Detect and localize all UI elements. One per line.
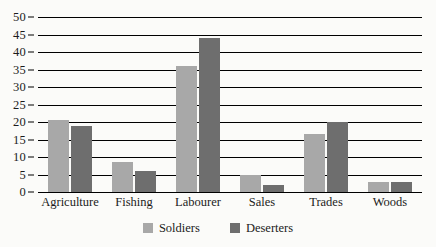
x-tick-label-trades: Trades — [309, 196, 343, 209]
y-tick-mark-40 — [28, 52, 34, 53]
legend-label-deserters: Deserters — [246, 222, 293, 235]
bars-layer — [38, 17, 422, 192]
gridline-0 — [38, 192, 422, 193]
bar-group — [38, 17, 102, 192]
bar-woods-deserters — [391, 182, 412, 193]
y-tick-label-20: 20 — [13, 116, 26, 129]
y-tick-label-0: 0 — [20, 186, 26, 199]
y-tick-mark-10 — [28, 157, 34, 158]
y-tick-mark-35 — [28, 69, 34, 70]
bar-group — [294, 17, 358, 192]
bar-trades-deserters — [327, 122, 348, 192]
x-tick-label-sales: Sales — [249, 196, 275, 209]
bar-group — [358, 17, 422, 192]
y-tick-mark-20 — [28, 122, 34, 123]
bar-chart: 05101520253035404550 AgricultureFishingL… — [0, 0, 436, 247]
legend-label-soldiers: Soldiers — [159, 222, 200, 235]
y-tick-label-40: 40 — [13, 46, 26, 59]
bar-labourer-deserters — [199, 38, 220, 192]
y-tick-label-30: 30 — [13, 81, 26, 94]
y-tick-mark-15 — [28, 139, 34, 140]
y-tick-label-25: 25 — [13, 98, 26, 111]
x-tick-label-labourer: Labourer — [175, 196, 221, 209]
bar-trades-soldiers — [304, 134, 325, 192]
y-tick-mark-50 — [28, 17, 34, 18]
y-axis: 05101520253035404550 — [0, 17, 34, 192]
y-tick-label-50: 50 — [13, 11, 26, 24]
bar-sales-soldiers — [240, 175, 261, 193]
y-tick-label-10: 10 — [13, 151, 26, 164]
bar-woods-soldiers — [368, 182, 389, 193]
x-tick-label-agriculture: Agriculture — [41, 196, 99, 209]
y-tick-label-45: 45 — [13, 28, 26, 41]
legend-swatch-deserters — [230, 223, 240, 233]
x-axis-category-labels: AgricultureFishingLabourerSalesTradesWoo… — [38, 196, 422, 216]
y-tick-label-15: 15 — [13, 133, 26, 146]
chart-legend: SoldiersDeserters — [0, 222, 436, 235]
bar-agriculture-deserters — [71, 126, 92, 193]
plot-area — [38, 17, 422, 192]
y-tick-mark-30 — [28, 87, 34, 88]
bar-labourer-soldiers — [176, 66, 197, 192]
bar-sales-deserters — [263, 185, 284, 192]
bar-agriculture-soldiers — [48, 120, 69, 192]
y-tick-mark-25 — [28, 104, 34, 105]
x-tick-label-woods: Woods — [373, 196, 407, 209]
bar-group — [166, 17, 230, 192]
bar-fishing-deserters — [135, 171, 156, 192]
y-tick-mark-5 — [28, 174, 34, 175]
legend-item-soldiers[interactable]: Soldiers — [143, 222, 200, 235]
x-tick-label-fishing: Fishing — [115, 196, 153, 209]
y-tick-label-35: 35 — [13, 63, 26, 76]
bar-group — [230, 17, 294, 192]
legend-item-deserters[interactable]: Deserters — [230, 222, 293, 235]
legend-swatch-soldiers — [143, 223, 153, 233]
y-tick-label-5: 5 — [20, 168, 26, 181]
bar-fishing-soldiers — [112, 162, 133, 192]
y-tick-mark-45 — [28, 34, 34, 35]
y-tick-mark-0 — [28, 192, 34, 193]
bar-group — [102, 17, 166, 192]
